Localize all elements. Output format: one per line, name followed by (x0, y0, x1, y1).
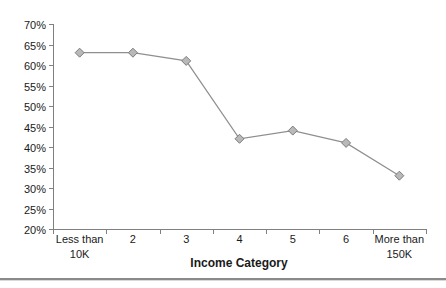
x-tick-label: 6 (343, 233, 349, 245)
y-tick-label: 45% (24, 122, 46, 134)
x-tick-label: 2 (130, 233, 136, 245)
x-tick-label: 4 (236, 233, 242, 245)
data-point-marker (235, 134, 244, 143)
y-tick-label: 35% (24, 163, 46, 175)
x-tick-label: 3 (183, 233, 189, 245)
y-tick-label: 65% (24, 40, 46, 52)
data-point-marker (128, 48, 137, 57)
x-tick-label: Less than10K (56, 233, 104, 260)
chart-screenshot: 70%65%60%55%50%45%40%35%30%25%20%Less th… (0, 0, 446, 288)
y-tick-label: 60% (24, 60, 46, 72)
data-point-marker (395, 171, 404, 180)
plot-area: 70%65%60%55%50%45%40%35%30%25%20%Less th… (24, 19, 427, 261)
data-point-marker (75, 48, 84, 57)
data-point-marker (288, 126, 297, 135)
x-tick-label: 5 (290, 233, 296, 245)
x-axis-title: Income Category (190, 256, 288, 270)
series-line (80, 53, 400, 176)
y-tick-label: 50% (24, 101, 46, 113)
data-point-marker (182, 56, 191, 65)
y-tick-label: 55% (24, 81, 46, 93)
data-point-marker (342, 138, 351, 147)
x-tick-label: More than150K (375, 233, 425, 260)
y-tick-label: 25% (24, 204, 46, 216)
y-tick-label: 70% (24, 19, 46, 31)
y-tick-label: 40% (24, 142, 46, 154)
y-tick-label: 30% (24, 183, 46, 195)
y-tick-label: 20% (24, 224, 46, 236)
line-chart: 70%65%60%55%50%45%40%35%30%25%20%Less th… (0, 0, 446, 288)
